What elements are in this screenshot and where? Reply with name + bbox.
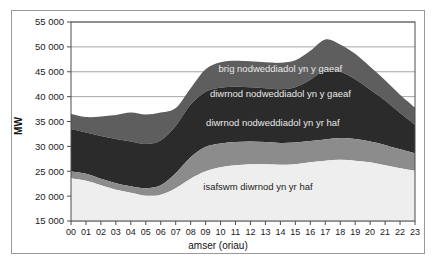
x-tick-label: 05 xyxy=(141,227,151,237)
x-tick-label: 11 xyxy=(231,227,240,237)
x-tick-label: 00 xyxy=(66,227,76,237)
x-tick-label: 19 xyxy=(350,227,360,237)
x-tick-label: 01 xyxy=(81,227,91,237)
x-tick-label: 21 xyxy=(380,227,390,237)
x-tick-label: 15 xyxy=(290,227,300,237)
x-tick-label: 06 xyxy=(156,227,166,237)
y-tick-label: 55 000 xyxy=(35,16,64,27)
y-tick-label: 20 000 xyxy=(35,191,64,202)
series-inline-label: brig nodweddiadol yn y gaeaf xyxy=(219,63,343,74)
y-axis-title: MW xyxy=(13,117,24,135)
y-tick-label: 45 000 xyxy=(35,66,64,77)
x-tick-label: 10 xyxy=(216,227,226,237)
x-tick-label: 04 xyxy=(126,227,136,237)
x-tick-label: 07 xyxy=(171,227,181,237)
x-axis-title: amser (oriau) xyxy=(188,240,247,251)
x-tick-label: 03 xyxy=(111,227,121,237)
y-tick-label: 50 000 xyxy=(35,41,64,52)
series-inline-label: diwrnod nodweddiadol yn yr haf xyxy=(206,117,340,128)
x-tick-labels: 0001020304050607080910111213141516171819… xyxy=(66,227,420,237)
x-tick-label: 02 xyxy=(96,227,106,237)
x-tick-label: 23 xyxy=(410,227,420,237)
y-tick-label: 40 000 xyxy=(35,91,64,102)
x-tick-label: 22 xyxy=(395,227,405,237)
y-tick-labels: 15 00020 00025 00030 00035 00040 00045 0… xyxy=(35,16,64,226)
chart-container: 15 00020 00025 00030 00035 00040 00045 0… xyxy=(0,0,436,264)
x-tick-marks xyxy=(71,221,415,225)
y-tick-label: 25 000 xyxy=(35,166,64,177)
x-tick-label: 14 xyxy=(275,227,285,237)
x-tick-label: 13 xyxy=(260,227,270,237)
x-tick-label: 17 xyxy=(320,227,330,237)
y-tick-label: 30 000 xyxy=(35,141,64,152)
y-tick-marks xyxy=(67,22,71,221)
x-tick-label: 16 xyxy=(305,227,315,237)
x-tick-label: 12 xyxy=(245,227,255,237)
x-tick-label: 20 xyxy=(365,227,375,237)
series-inline-label: isafswm diwrnod yn yr haf xyxy=(203,181,313,192)
x-tick-label: 18 xyxy=(335,227,345,237)
stacked-area-chart: 15 00020 00025 00030 00035 00040 00045 0… xyxy=(0,0,436,264)
y-tick-label: 35 000 xyxy=(35,116,64,127)
x-tick-label: 08 xyxy=(186,227,196,237)
y-tick-label: 15 000 xyxy=(35,215,64,226)
x-tick-label: 09 xyxy=(201,227,211,237)
series-inline-label: diwrnod nodweddiadol yn y gaeaf xyxy=(210,88,351,99)
